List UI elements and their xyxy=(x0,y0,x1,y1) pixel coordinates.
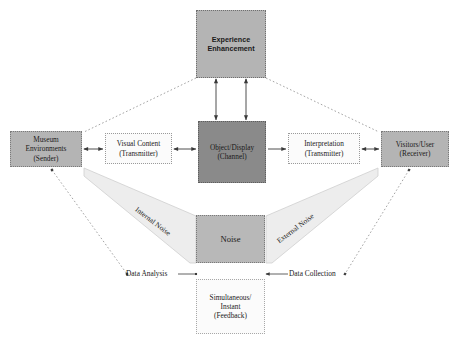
dotted-line-experience-to-visitors xyxy=(266,78,379,132)
node-object-display[interactable]: Object/Display (Channel) xyxy=(198,121,266,183)
node-object-display-label: Object/Display (Channel) xyxy=(210,143,254,161)
node-museum-environments[interactable]: Museum Environments (Sender) xyxy=(10,131,82,167)
funnel-right-arm xyxy=(266,168,378,263)
edge-label-data-analysis: Data Analysis xyxy=(126,269,167,278)
node-visual-content[interactable]: Visual Content (Transmitter) xyxy=(105,133,172,164)
node-interpretation[interactable]: Interpretation (Transmitter) xyxy=(288,133,360,164)
node-experience-enhancement-label: Experience Enhancement xyxy=(207,35,254,53)
node-interpretation-label: Interpretation (Transmitter) xyxy=(304,139,344,157)
node-noise-label: Noise xyxy=(220,234,240,245)
node-feedback-label: Simultaneous/ Instant (Feedback) xyxy=(210,293,252,320)
node-visitors-user-label: Visitors/User (Receiver) xyxy=(396,140,434,158)
node-feedback[interactable]: Simultaneous/ Instant (Feedback) xyxy=(196,279,265,334)
node-experience-enhancement[interactable]: Experience Enhancement xyxy=(196,10,266,78)
node-noise[interactable]: Noise xyxy=(196,215,265,263)
node-visual-content-label: Visual Content (Transmitter) xyxy=(117,139,161,157)
edge-label-data-collection: Data Collection xyxy=(289,269,336,278)
node-museum-environments-label: Museum Environments (Sender) xyxy=(26,135,67,162)
dotted-line-experience-to-museum xyxy=(84,78,196,132)
diagram-canvas: Experience Enhancement Museum Environmen… xyxy=(0,0,460,338)
node-visitors-user[interactable]: Visitors/User (Receiver) xyxy=(381,131,449,167)
